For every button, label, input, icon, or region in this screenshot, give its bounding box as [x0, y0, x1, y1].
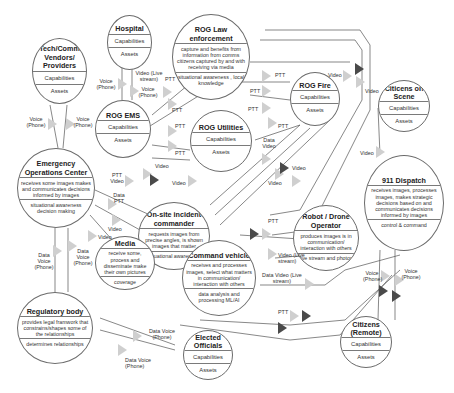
flow-arrow-icon: [343, 70, 352, 82]
node-elected-officials[interactable]: Elected Officials Capabilities Assets: [183, 330, 233, 380]
node-assets: Assets: [33, 84, 86, 97]
node-citizens-on-scene[interactable]: Citicens on Scene Capabilities Assets: [378, 80, 430, 132]
edge-label: Video: [172, 180, 186, 186]
flow-arrow-icon: [133, 330, 142, 342]
edge-label: PTT: [278, 309, 288, 315]
node-assets: Assets: [191, 145, 251, 158]
node-title: Regulatory body: [23, 308, 88, 316]
node-capabilities: Capabilities: [291, 90, 339, 103]
node-capabilities: provides legal framwork that constrains/…: [18, 316, 92, 338]
flow-arrow-icon: [150, 174, 159, 186]
flow-arrow-icon: [250, 228, 259, 240]
node-capabilities: Capabilities: [96, 120, 150, 133]
node-capabilities: Capabilities: [33, 71, 86, 84]
edge-label: Video: [292, 165, 306, 171]
flow-arrow-icon: [290, 310, 299, 322]
node-capabilities: Capabilities: [108, 34, 151, 47]
node-title: Elected Officials: [184, 334, 232, 351]
node-title: Citizens (Remote): [341, 321, 391, 338]
node-assets: Assets: [108, 47, 151, 60]
flow-arrow-icon: [392, 290, 401, 302]
node-media[interactable]: Media receive some, process and dissemin…: [95, 236, 155, 290]
flow-arrow-icon: [118, 344, 127, 356]
node-title: Citicens on Scene: [379, 85, 429, 102]
edge-label: Video: [365, 88, 379, 94]
edge-label: PTT: [268, 218, 278, 224]
node-assets: control & command: [365, 219, 443, 229]
edge-label: PTT: [175, 150, 185, 156]
flow-arrow-icon: [356, 76, 365, 88]
edge-label: Video: [328, 72, 342, 78]
edge-label: Video: [108, 226, 122, 232]
node-title: ROG Law enforcement: [173, 26, 249, 43]
edge-label: Voice (Phone): [400, 268, 422, 280]
edge-label: Data PTT: [112, 192, 126, 204]
node-assets: situational awareness , local knowledge: [173, 72, 249, 88]
node-capabilities: Capabilities: [191, 132, 251, 145]
node-emergency-operations-center[interactable]: Emergency Operations Center receives som…: [17, 148, 95, 228]
flow-arrow-icon: [188, 175, 197, 187]
node-title: ROG Fire: [295, 82, 335, 90]
node-citizens-remote[interactable]: Citizens (Remote) Capabilities Assets: [340, 316, 392, 368]
flow-arrow-icon: [278, 322, 287, 334]
node-command-vehicle[interactable]: Command vehicle receives and processes i…: [182, 240, 256, 316]
edge-label: Data Voice (Phone): [72, 248, 94, 266]
node-assets: Assets: [96, 133, 150, 146]
edge-label: Voice (Phone): [363, 270, 381, 282]
node-title: ROG EMS: [102, 112, 144, 120]
node-title: Hospital: [111, 25, 147, 33]
flow-arrow-icon: [302, 310, 311, 322]
flow-arrow-icon: [268, 117, 277, 129]
edge-label: Video: [360, 150, 374, 156]
node-capabilities: receives images, processes images, makes…: [365, 185, 443, 219]
node-title: Emergency Operations Center: [18, 160, 94, 177]
edge-label: Data Video (Live stream): [256, 272, 308, 284]
node-title: 911 Dispatch: [378, 177, 430, 185]
flow-arrow-icon: [355, 63, 364, 75]
flow-arrow-icon: [381, 270, 390, 282]
node-assets: data analysis and processing ML/AI: [183, 288, 255, 304]
flow-arrow-icon: [262, 70, 271, 82]
node-rog-utilities[interactable]: ROG Utilities Capabilities Assets: [190, 110, 252, 172]
node-regulatory-body[interactable]: Regulatory body provides legal framwork …: [17, 292, 93, 364]
edge-label: PTT: [278, 123, 288, 129]
node-title: Command vehicle: [184, 252, 254, 260]
flow-arrow-icon: [262, 228, 271, 240]
edge-label: Data Voice (Phone): [145, 328, 179, 340]
edge-label: Video: [268, 180, 282, 186]
edge-label: PTT: [250, 88, 260, 94]
flow-arrow-icon: [125, 175, 134, 187]
node-tech-comm-vendors[interactable]: Tech/Comm Vendors/ Providers Capabilitie…: [32, 38, 87, 104]
edge-label: PTT: [172, 107, 182, 113]
edge-label: Voice (Phone): [25, 116, 47, 128]
edge-label: PTT: [248, 106, 258, 112]
flow-arrow-icon: [118, 78, 127, 90]
node-assets: determines relationships: [18, 338, 92, 348]
node-rog-ems[interactable]: ROG EMS Capabilities Assets: [95, 100, 151, 158]
flow-arrow-icon: [292, 175, 301, 187]
node-title: Media: [111, 240, 139, 248]
edge-label: Video: [98, 234, 112, 240]
node-capabilities: receives some images makes and communica…: [18, 177, 94, 199]
node-hospital[interactable]: Hospital Capabilities Assets: [107, 15, 152, 70]
node-rog-law-enforcement[interactable]: ROG Law enforcement capture and benefits…: [172, 14, 250, 100]
edge-label: Data Video: [260, 137, 278, 149]
edge-label: Video (Live stream): [278, 252, 312, 264]
node-911-dispatch[interactable]: 911 Dispatch receives images, processes …: [364, 155, 444, 251]
edge-label: PTT: [175, 123, 185, 129]
flow-arrow-icon: [262, 85, 271, 97]
node-capabilities: Capabilities: [379, 101, 429, 114]
node-assets: Assets: [291, 103, 339, 116]
edge-label: Data Voice (Phone): [33, 252, 55, 270]
node-title: On-site incident commander: [139, 211, 209, 228]
node-rog-fire[interactable]: ROG Fire Capabilities Assets: [290, 72, 340, 126]
edge-label: PTT: [275, 72, 285, 78]
edge-label: Video: [155, 163, 169, 169]
flow-arrow-icon: [48, 118, 57, 130]
edge-label: PTT Video: [110, 172, 124, 184]
edge-label: Voice (Phone): [137, 86, 159, 98]
edge-label: Data Voice (Phone): [125, 357, 165, 369]
flow-arrow-icon: [163, 86, 172, 98]
node-capabilities: receives and processes images, select wh…: [183, 260, 255, 288]
flow-arrow-icon: [262, 153, 271, 165]
